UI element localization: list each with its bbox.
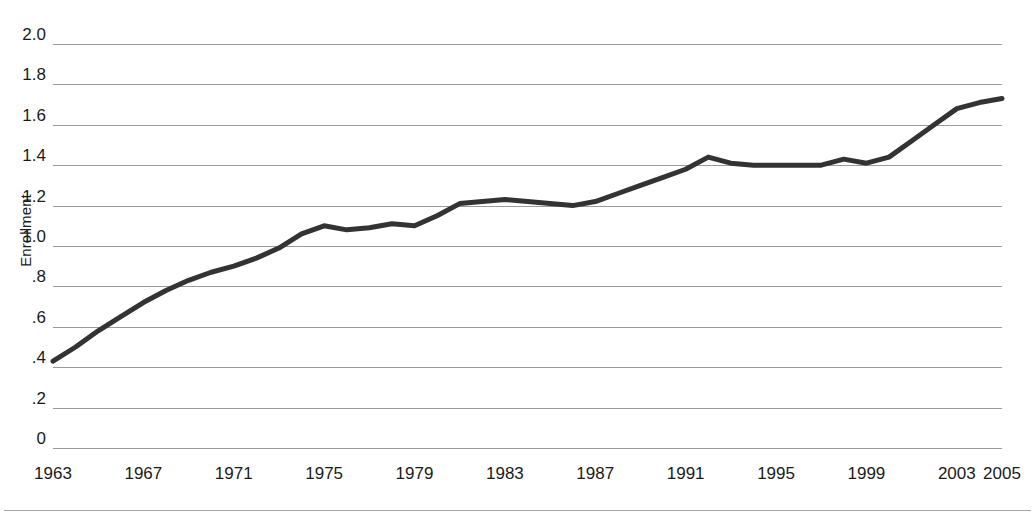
- enrollment-line-path: [53, 99, 1002, 362]
- x-tick-label: 1979: [396, 464, 434, 484]
- x-tick-label: 2003: [938, 464, 976, 484]
- y-tick-label: 2.0: [0, 25, 53, 45]
- x-tick-label: 1987: [576, 464, 614, 484]
- plot-area: 0.2.4.6.81.01.21.41.61.82.0: [53, 44, 1002, 448]
- y-tick-label: 1.8: [0, 65, 53, 85]
- x-tick-label: 1999: [848, 464, 886, 484]
- y-tick-label: 0: [0, 429, 53, 449]
- x-tick-label: 1983: [486, 464, 524, 484]
- x-axis: 1963196719711975197919831987199119951999…: [0, 458, 1035, 498]
- y-tick-label: .6: [0, 308, 53, 328]
- y-tick-label: 1.4: [0, 146, 53, 166]
- chart-page: Enrollment 0.2.4.6.81.01.21.41.61.82.0 1…: [0, 0, 1035, 518]
- x-tick-label: 1971: [215, 464, 253, 484]
- y-tick-label: .4: [0, 348, 53, 368]
- x-tick-label: 2005: [983, 464, 1021, 484]
- enrollment-line-series: [53, 44, 1002, 448]
- x-tick-label: 1967: [124, 464, 162, 484]
- y-tick-label: 1.0: [0, 227, 53, 247]
- y-tick-label: .2: [0, 389, 53, 409]
- x-tick-label: 1963: [34, 464, 72, 484]
- y-tick-label: 1.2: [0, 187, 53, 207]
- x-tick-label: 1995: [757, 464, 795, 484]
- x-tick-label: 1975: [305, 464, 343, 484]
- x-tick-label: 1991: [667, 464, 705, 484]
- gridline: 0: [53, 448, 1002, 449]
- y-tick-label: .8: [0, 267, 53, 287]
- y-tick-label: 1.6: [0, 106, 53, 126]
- bottom-border-rule: [4, 510, 1031, 511]
